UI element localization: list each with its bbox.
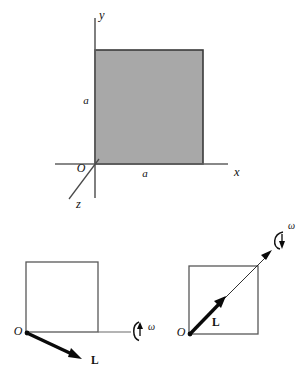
panel-bottom-left: L O ω	[14, 262, 155, 366]
x-axis-label: x	[233, 165, 240, 179]
vector-arrowhead-left	[68, 348, 82, 359]
dimension-label-horizontal: a	[142, 167, 148, 179]
panel-top: y x z O a a	[55, 8, 240, 211]
vector-label-right: L	[212, 316, 220, 328]
y-axis-label: y	[97, 8, 105, 22]
omega-label-right: ω	[288, 220, 295, 231]
dimension-label-vertical: a	[83, 94, 89, 106]
figure-root: y x z O a a L O	[0, 0, 308, 388]
origin-label-right: O	[177, 325, 186, 339]
panel-bottom-right: L O ω	[177, 220, 295, 339]
spin-axis-arrowhead-right	[261, 250, 272, 260]
origin-label-left: O	[14, 324, 23, 338]
physics-figure-canvas: y x z O a a L O	[0, 0, 308, 388]
origin-label-top: O	[77, 161, 86, 175]
omega-label-left: ω	[148, 321, 155, 332]
square-outline-left	[26, 262, 98, 332]
spin-arrow-icon-left	[134, 322, 139, 341]
spin-arrowhead-right	[279, 241, 285, 249]
shaded-square-lamina	[95, 50, 203, 164]
z-axis-label: z	[75, 197, 81, 211]
vector-label-left: L	[91, 354, 99, 366]
angular-momentum-vector-left	[27, 333, 74, 355]
